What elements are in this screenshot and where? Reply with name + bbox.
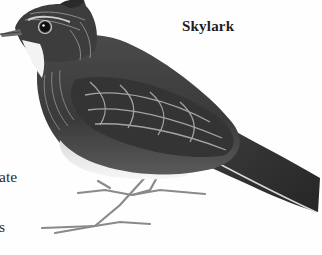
legs bbox=[42, 172, 205, 233]
eye bbox=[40, 22, 50, 32]
text-line: s bbox=[0, 219, 47, 236]
text-line: ate bbox=[0, 169, 47, 186]
figure-caption: Skylark bbox=[182, 18, 234, 35]
body-text-fragment: ate s o’s, or tes, like two bbox=[0, 136, 47, 255]
book-page: Skylark ate s o’s, or tes, like two bbox=[0, 0, 322, 255]
head bbox=[15, 0, 97, 62]
skylark-illustration bbox=[0, 0, 322, 255]
